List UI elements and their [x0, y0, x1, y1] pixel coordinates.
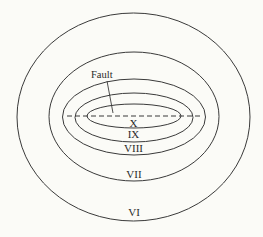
fault-leader-line	[107, 81, 113, 113]
zone-label-vi: VI	[128, 206, 140, 218]
zone-label-ix: IX	[128, 128, 140, 140]
zone-label-viii: VIII	[124, 142, 143, 154]
fault-label: Fault	[91, 69, 113, 80]
zone-label-x: X	[130, 117, 138, 129]
zone-label-vii: VII	[126, 168, 142, 180]
isoseismal-diagram: Fault X IX VIII VII VI	[0, 0, 263, 237]
